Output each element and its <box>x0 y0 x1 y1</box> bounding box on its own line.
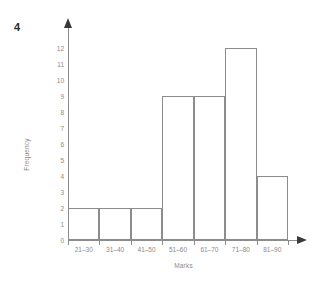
x-tick-mark <box>131 240 132 245</box>
x-tick-label: 81–90 <box>251 246 294 254</box>
y-tick-label: 3 <box>42 189 64 196</box>
x-axis-title: Marks <box>68 262 299 269</box>
y-tick-label: 4 <box>42 173 64 180</box>
x-tick-mark <box>225 240 226 245</box>
bar <box>257 176 288 240</box>
y-tick-label: 11 <box>42 61 64 68</box>
x-tick-mark <box>257 240 258 245</box>
bar <box>225 48 256 240</box>
y-tick-label: 10 <box>42 77 64 84</box>
y-tick-label: 0 <box>42 237 64 244</box>
y-axis-title: Frequency <box>23 115 30 195</box>
y-tick-label: 2 <box>42 205 64 212</box>
y-tick-label: 1 <box>42 221 64 228</box>
x-tick-mark <box>194 240 195 245</box>
y-tick-label: 8 <box>42 109 64 116</box>
histogram-figure: 4 1211109876543210 Frequency 21–3031–404… <box>0 0 326 284</box>
bar <box>68 208 99 240</box>
x-tick-mark <box>288 240 289 245</box>
x-axis-line <box>68 240 299 241</box>
bar <box>194 96 225 240</box>
y-tick-label: 5 <box>42 157 64 164</box>
bar <box>162 96 193 240</box>
x-axis-arrow-icon <box>297 236 307 244</box>
x-tick-mark <box>68 240 69 245</box>
y-tick-label: 6 <box>42 141 64 148</box>
x-tick-mark <box>162 240 163 245</box>
y-tick-label: 9 <box>42 93 64 100</box>
question-number: 4 <box>14 21 20 33</box>
y-tick-label: 7 <box>42 125 64 132</box>
y-axis-arrow-icon <box>64 18 72 28</box>
y-axis-tick-labels: 1211109876543210 <box>40 0 64 284</box>
bar <box>131 208 162 240</box>
y-tick-label: 12 <box>42 45 64 52</box>
bar <box>99 208 130 240</box>
x-tick-mark <box>99 240 100 245</box>
